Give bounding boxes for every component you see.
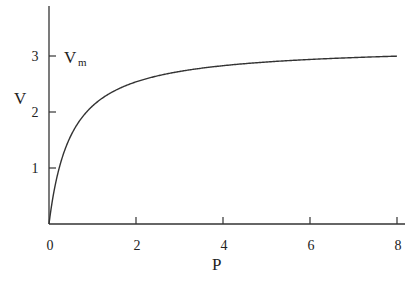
x-ticks: 02468 <box>47 217 402 253</box>
saturation-curve <box>49 56 397 224</box>
y-ticks: 123 <box>32 49 57 176</box>
x-tick-label: 4 <box>221 238 228 253</box>
x-tick-label: 2 <box>134 238 141 253</box>
y-tick-label: 2 <box>32 105 39 120</box>
axes <box>49 6 405 224</box>
vm-annotation: V m <box>64 48 87 68</box>
x-tick-label: 0 <box>47 238 54 253</box>
y-tick-label: 3 <box>32 49 39 64</box>
x-tick-label: 8 <box>395 238 402 253</box>
chart: 123 02468 V P V m <box>0 0 415 281</box>
vm-subscript: m <box>78 56 87 68</box>
x-axis-label: P <box>212 255 221 274</box>
x-tick-label: 6 <box>308 238 315 253</box>
y-axis-label: V <box>14 89 27 108</box>
vm-label: V <box>64 48 77 67</box>
y-tick-label: 1 <box>32 161 39 176</box>
